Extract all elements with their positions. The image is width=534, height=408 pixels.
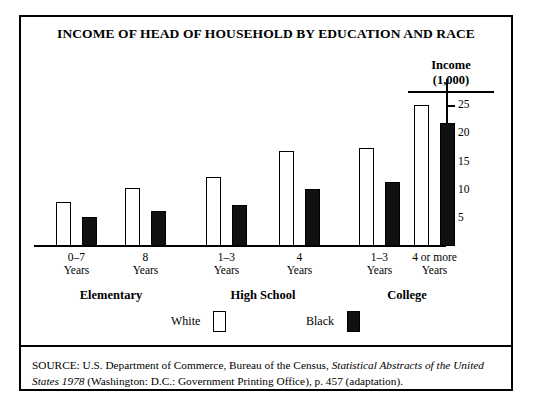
source-note: SOURCE: U.S. Department of Commerce, Bur… — [21, 347, 511, 389]
source-italic-year: 1978 — [62, 375, 85, 387]
x-group-label-high-school: High School — [231, 288, 296, 303]
x-group-label-elementary: Elementary — [80, 288, 142, 303]
x-category-label-5-line2: Years — [412, 264, 457, 277]
bar-black-3 — [305, 189, 320, 246]
x-category-label-5: 4 or moreYears — [412, 251, 457, 278]
legend-entry-black: Black — [306, 311, 360, 332]
source-prefix: SOURCE: U.S. Department of Commerce, Bur… — [32, 359, 332, 371]
legend-swatch-white-icon — [213, 311, 226, 332]
y-tick-25 — [446, 105, 455, 106]
legend-entry-white: White — [171, 311, 226, 332]
y-tick-label-5: 5 — [458, 212, 464, 224]
x-category-label-1: 8Years — [133, 251, 159, 278]
y-axis-caption: Income (1,000) — [396, 58, 506, 93]
x-category-label-2-line2: Years — [214, 264, 240, 277]
y-tick-label-25: 25 — [458, 100, 470, 112]
bar-black-4 — [385, 182, 400, 246]
legend-label-white: White — [171, 314, 200, 329]
chart-title: INCOME OF HEAD OF HOUSEHOLD BY EDUCATION… — [21, 26, 511, 42]
legend-swatch-black-icon — [347, 311, 360, 332]
y-tick-label-20: 20 — [458, 128, 470, 140]
x-category-label-3-line2: Years — [287, 264, 313, 277]
x-category-label-1-line2: Years — [133, 264, 159, 277]
x-category-label-2-line1: 1–3 — [214, 251, 240, 264]
x-category-label-3: 4Years — [287, 251, 313, 278]
bar-white-5 — [414, 105, 429, 246]
plot-region: 510152025 — [34, 94, 446, 246]
bar-white-0 — [56, 202, 71, 246]
x-group-label-college: College — [387, 288, 427, 303]
bar-black-1 — [151, 211, 166, 246]
x-category-label-4-line1: 1–3 — [367, 251, 393, 264]
x-category-label-1-line1: 8 — [133, 251, 159, 264]
y-tick-label-10: 10 — [458, 184, 470, 196]
y-tick-label-15: 15 — [458, 156, 470, 168]
x-category-label-0-line1: 0–7 — [64, 251, 90, 264]
x-category-label-0-line2: Years — [64, 264, 90, 277]
bar-white-1 — [125, 188, 140, 246]
bar-black-0 — [82, 217, 97, 246]
bar-black-5 — [440, 123, 455, 246]
x-category-label-4: 1–3Years — [367, 251, 393, 278]
y-axis-caption-rule — [408, 91, 494, 93]
x-category-label-0: 0–7Years — [64, 251, 90, 278]
y-axis-caption-line1: Income — [396, 58, 506, 73]
x-category-label-5-line1: 4 or more — [412, 251, 457, 264]
chart-legend: White Black — [21, 307, 511, 337]
bar-white-3 — [279, 151, 294, 246]
bar-white-2 — [206, 177, 221, 246]
bar-black-2 — [232, 205, 247, 246]
source-suffix: (Washington: D.C.: Government Printing O… — [84, 375, 403, 387]
x-category-label-4-line2: Years — [367, 264, 393, 277]
chart-area: INCOME OF HEAD OF HOUSEHOLD BY EDUCATION… — [21, 17, 511, 347]
x-category-label-2: 1–3Years — [214, 251, 240, 278]
y-axis-caption-line2: (1,000) — [396, 73, 506, 88]
legend-label-black: Black — [306, 314, 334, 329]
bar-white-4 — [359, 148, 374, 246]
x-category-label-3-line1: 4 — [287, 251, 313, 264]
figure-frame: INCOME OF HEAD OF HOUSEHOLD BY EDUCATION… — [19, 15, 513, 391]
